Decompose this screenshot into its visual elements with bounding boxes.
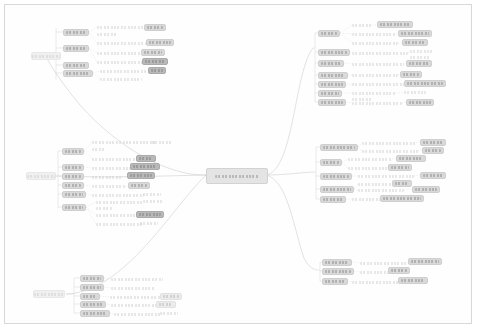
cluster-right-top-leaf-13[interactable] — [352, 81, 408, 87]
cluster-left-top-branch-3[interactable] — [63, 70, 93, 77]
cluster-right-middle-leaf-7[interactable] — [388, 164, 412, 171]
anchor-left-top[interactable] — [31, 52, 61, 60]
cluster-right-top-branch-6[interactable] — [318, 99, 346, 106]
cluster-left-bottom-leaf-7[interactable] — [160, 310, 178, 316]
cluster-left-bottom-leaf-1[interactable] — [111, 285, 155, 291]
cluster-left-bottom-leaf-2[interactable] — [110, 294, 166, 300]
cluster-left-middle-leaf-19[interactable] — [140, 220, 158, 226]
cluster-right-top-leaf-19[interactable] — [406, 99, 434, 106]
cluster-left-middle-branch-1[interactable] — [62, 164, 84, 171]
cluster-right-top-leaf-3[interactable] — [398, 30, 432, 37]
cluster-left-middle-leaf-8[interactable] — [127, 172, 155, 179]
cluster-right-middle-leaf-5[interactable] — [396, 155, 426, 162]
cluster-right-middle-branch-1[interactable] — [320, 159, 342, 166]
cluster-right-top-leaf-18[interactable] — [352, 100, 402, 106]
cluster-right-middle-leaf-3[interactable] — [422, 147, 444, 154]
cluster-right-top-leaf-14[interactable] — [404, 80, 446, 87]
mindmap-canvas[interactable] — [0, 0, 477, 330]
cluster-left-middle-leaf-0[interactable] — [92, 139, 156, 145]
cluster-right-top-branch-3[interactable] — [318, 72, 348, 79]
cluster-left-top-leaf-11[interactable] — [100, 76, 142, 82]
anchor-left-middle[interactable] — [26, 172, 56, 180]
cluster-left-middle-leaf-18[interactable] — [96, 221, 142, 227]
cluster-left-middle-leaf-15[interactable] — [143, 198, 163, 204]
cluster-left-top-leaf-1[interactable] — [97, 31, 117, 37]
cluster-left-top-leaf-8[interactable] — [142, 58, 168, 65]
cluster-left-middle-leaf-2[interactable] — [152, 139, 172, 145]
cluster-right-top-leaf-0[interactable] — [352, 22, 372, 28]
cluster-left-top-branch-0[interactable] — [63, 29, 89, 36]
cluster-right-top-leaf-17[interactable] — [404, 89, 426, 95]
cluster-left-middle-branch-2[interactable] — [62, 173, 84, 180]
cluster-right-bottom-leaf-0[interactable] — [360, 260, 408, 266]
cluster-right-middle-leaf-9[interactable] — [420, 172, 446, 179]
cluster-right-middle-leaf-8[interactable] — [358, 173, 414, 179]
cluster-right-top-branch-0[interactable] — [318, 30, 340, 37]
cluster-right-bottom-branch-1[interactable] — [322, 268, 354, 275]
cluster-right-top-leaf-12[interactable] — [400, 71, 422, 78]
cluster-left-bottom-branch-3[interactable] — [80, 301, 106, 308]
cluster-right-bottom-leaf-2[interactable] — [360, 269, 390, 275]
cluster-left-middle-leaf-12[interactable] — [143, 191, 161, 197]
cluster-right-middle-leaf-12[interactable] — [358, 187, 404, 193]
cluster-right-top-leaf-1[interactable] — [377, 21, 413, 28]
cluster-left-top-leaf-9[interactable] — [100, 68, 148, 74]
cluster-left-top-branch-1[interactable] — [63, 45, 89, 52]
cluster-right-middle-leaf-13[interactable] — [412, 186, 440, 193]
cluster-right-bottom-leaf-3[interactable] — [388, 267, 410, 274]
cluster-right-middle-leaf-11[interactable] — [392, 180, 412, 187]
cluster-right-top-leaf-11[interactable] — [352, 72, 398, 78]
cluster-left-bottom-leaf-5[interactable] — [156, 301, 176, 308]
cluster-right-middle-branch-0[interactable] — [320, 144, 358, 151]
cluster-left-bottom-leaf-6[interactable] — [114, 311, 162, 317]
cluster-right-middle-branch-3[interactable] — [320, 186, 354, 193]
cluster-right-middle-branch-4[interactable] — [320, 196, 346, 203]
cluster-left-bottom-branch-4[interactable] — [80, 310, 110, 317]
cluster-right-top-leaf-9[interactable] — [352, 61, 404, 67]
cluster-right-bottom-leaf-4[interactable] — [352, 279, 400, 285]
cluster-left-middle-leaf-11[interactable] — [92, 192, 144, 198]
cluster-right-bottom-branch-2[interactable] — [322, 278, 348, 285]
cluster-left-bottom-branch-1[interactable] — [80, 284, 104, 291]
cluster-left-middle-branch-3[interactable] — [62, 182, 84, 189]
cluster-right-top-leaf-2[interactable] — [352, 31, 396, 37]
cluster-right-bottom-leaf-1[interactable] — [408, 258, 442, 265]
cluster-left-top-leaf-2[interactable] — [144, 24, 166, 31]
cluster-left-top-leaf-10[interactable] — [148, 67, 166, 74]
cluster-left-middle-leaf-10[interactable] — [128, 182, 150, 189]
cluster-right-top-leaf-6[interactable] — [352, 50, 408, 56]
root-node[interactable] — [206, 168, 268, 184]
cluster-left-middle-leaf-14[interactable] — [96, 205, 112, 211]
cluster-left-bottom-leaf-3[interactable] — [160, 293, 182, 300]
cluster-left-middle-leaf-9[interactable] — [92, 183, 126, 189]
cluster-left-bottom-branch-2[interactable] — [80, 293, 100, 300]
cluster-right-middle-leaf-6[interactable] — [348, 165, 388, 171]
cluster-left-middle-leaf-7[interactable] — [92, 174, 122, 180]
cluster-left-middle-leaf-17[interactable] — [136, 211, 164, 218]
cluster-left-middle-branch-0[interactable] — [62, 148, 84, 155]
cluster-right-top-leaf-4[interactable] — [352, 40, 398, 46]
cluster-right-middle-leaf-14[interactable] — [352, 196, 382, 202]
cluster-left-middle-leaf-6[interactable] — [130, 163, 160, 170]
anchor-left-bottom[interactable] — [33, 290, 65, 298]
cluster-left-middle-leaf-16[interactable] — [96, 212, 138, 218]
cluster-left-middle-leaf-4[interactable] — [136, 155, 156, 162]
cluster-left-bottom-leaf-0[interactable] — [111, 276, 163, 282]
cluster-right-middle-leaf-15[interactable] — [380, 195, 424, 202]
cluster-left-top-leaf-6[interactable] — [141, 49, 165, 56]
cluster-right-middle-leaf-2[interactable] — [362, 148, 418, 154]
cluster-left-top-leaf-4[interactable] — [146, 39, 174, 46]
cluster-right-bottom-branch-0[interactable] — [322, 259, 352, 266]
cluster-right-top-leaf-5[interactable] — [402, 39, 428, 46]
cluster-right-top-branch-5[interactable] — [318, 90, 342, 97]
cluster-right-middle-leaf-0[interactable] — [362, 140, 416, 146]
cluster-right-top-branch-1[interactable] — [318, 49, 350, 56]
cluster-left-bottom-leaf-4[interactable] — [111, 302, 159, 308]
cluster-right-middle-branch-2[interactable] — [320, 173, 352, 180]
cluster-left-middle-leaf-5[interactable] — [92, 165, 132, 171]
cluster-left-middle-branch-4[interactable] — [62, 191, 86, 198]
cluster-left-top-branch-2[interactable] — [63, 62, 89, 69]
cluster-right-middle-leaf-1[interactable] — [420, 139, 446, 146]
cluster-right-top-leaf-10[interactable] — [406, 60, 432, 67]
cluster-left-bottom-branch-0[interactable] — [80, 275, 104, 282]
